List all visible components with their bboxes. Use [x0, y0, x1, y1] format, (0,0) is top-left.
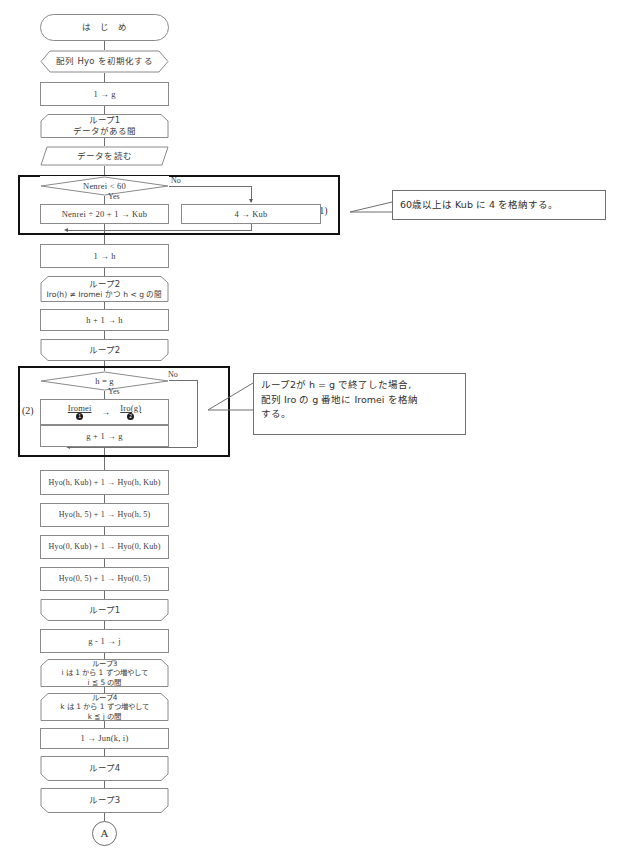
node-assign-g-label: 1 → g: [91, 89, 117, 100]
note-2: ループ2が h = g で終了した場合, 配列 Iro の g 番地に Irom…: [253, 373, 466, 435]
node-read-data: データを読む: [40, 146, 169, 166]
node-increment-h: h + 1 → h: [40, 309, 169, 331]
loop3-end-label: ループ3: [89, 795, 120, 806]
edge-loop4end-to-loop3end: [104, 781, 105, 788]
group-tag-2: (2): [22, 405, 34, 416]
store-iro-arrow: →: [102, 407, 111, 418]
edge-loop1end-to-assignj: [104, 621, 105, 629]
node-assign-j-label: g - 1 → j: [86, 636, 123, 647]
loop1-end-labels: ループ1: [40, 599, 169, 621]
loop1-end-label: ループ1: [89, 605, 120, 616]
note-2-line3: する。: [261, 407, 458, 422]
node-calc-kub: Nenrei ÷ 20 + 1 → Kub: [40, 204, 169, 224]
loop1-start-line1: ループ1: [73, 115, 136, 126]
flowchart-canvas: は じ め 配列 Hyo を初期化する 1 → g ループ1 データがある間 デ…: [0, 0, 619, 850]
branch-label-yes-1: Yes: [108, 192, 120, 201]
node-set-kub4-label: 4 → Kub: [232, 209, 269, 220]
node-assign-jun: 1 → Jun(k, i): [40, 728, 169, 749]
node-loop1-start: ループ1 データがある間: [40, 114, 169, 138]
note-1-text: 60歳以上は Kub に 4 を格納する。: [400, 198, 558, 213]
edge-assignh-to-loop2: [104, 268, 105, 276]
node-loop1-end: ループ1: [40, 599, 169, 621]
loop4-end-labels: ループ4: [40, 756, 169, 781]
node-assign-j: g - 1 → j: [40, 629, 169, 653]
node-increment-g: g + 1 → g: [40, 425, 169, 447]
node-hyo-0-kub-label: Hyo(0, Kub) + 1 → Hyo(0, Kub): [46, 542, 162, 552]
loop3-start-line2: i は 1 から 1 ずつ増やして: [61, 668, 147, 677]
node-init-hyo-label: 配列 Hyo を初期化する: [40, 50, 169, 73]
node-connector-a: A: [92, 821, 117, 846]
edge-hyo0kub-to-hyo05: [104, 559, 105, 567]
node-calc-kub-label: Nenrei ÷ 20 + 1 → Kub: [60, 209, 149, 220]
node-hyo-h-5-label: Hyo(h, 5) + 1 → Hyo(h, 5): [57, 510, 153, 520]
node-assign-h-label: 1 → h: [91, 251, 117, 262]
note-2-line1: ループ2が h = g で終了した場合,: [261, 378, 458, 393]
loop4-end-label: ループ4: [89, 763, 120, 774]
node-read-data-label: データを読む: [40, 146, 169, 166]
edge-assigng-to-loop1: [104, 106, 105, 114]
edge-loop1-to-read: [104, 138, 105, 146]
loop3-start-line1: ループ3: [61, 659, 147, 668]
node-decision-nenrei: Nenrei < 60: [40, 176, 169, 196]
loop4-start-line2: k は 1 から 1 ずつ増やして: [60, 702, 148, 711]
note-1: 60歳以上は Kub に 4 を格納する。: [392, 190, 606, 220]
node-hyo-h-5: Hyo(h, 5) + 1 → Hyo(h, 5): [40, 503, 169, 527]
branch-label-yes-2: Yes: [108, 387, 120, 396]
branch-label-no-2: No: [168, 370, 178, 379]
edge-hyoh5-to-hyo0kub: [104, 527, 105, 535]
edge-loop4-to-jun: [104, 721, 105, 728]
node-loop3-start: ループ3 i は 1 から 1 ずつ増やして i ≦ 5 の間: [40, 659, 169, 687]
loop3-start-line3: i ≦ 5 の間: [61, 678, 147, 687]
node-hyo-h-kub-label: Hyo(h, Kub) + 1 → Hyo(h, Kub): [46, 478, 162, 488]
edge-init-to-assigng: [104, 73, 105, 82]
loop4-start-labels: ループ4 k は 1 から 1 ずつ増やして k ≦ j の間: [40, 693, 169, 721]
node-hyo-0-5: Hyo(0, 5) + 1 → Hyo(0, 5): [40, 567, 169, 591]
node-store-iro: Iromei 1 → Iro(g) 2: [40, 399, 169, 425]
store-iro-right: Iro(g): [120, 404, 141, 413]
branch-label-no-1: No: [171, 176, 181, 185]
node-decision-hg-label: h = g: [40, 371, 169, 391]
node-assign-jun-label: 1 → Jun(k, i): [79, 733, 131, 744]
store-iro-mark2: 2: [127, 413, 134, 420]
node-init-hyo: 配列 Hyo を初期化する: [40, 50, 169, 73]
edge-loop2-to-inc: [104, 302, 105, 309]
loop1-start-labels: ループ1 データがある間: [40, 114, 169, 138]
note-2-leader: [200, 382, 255, 416]
edge-hyo05-to-loop1end: [104, 591, 105, 599]
node-loop2-start: ループ2 Iro(h) ≠ Iromei かつ h < g の間: [40, 276, 169, 302]
store-iro-right-group: Iro(g) 2: [120, 404, 141, 420]
store-iro-left: Iromei: [68, 404, 92, 413]
loop2-start-line1: ループ2: [47, 279, 163, 290]
node-hyo-0-kub: Hyo(0, Kub) + 1 → Hyo(0, Kub): [40, 535, 169, 559]
loop2-start-line2: Iro(h) ≠ Iromei かつ h < g の間: [47, 290, 163, 299]
node-decision-nenrei-label: Nenrei < 60: [40, 176, 169, 196]
node-decision-hg: h = g: [40, 371, 169, 391]
loop3-start-labels: ループ3 i は 1 から 1 ずつ増やして i ≦ 5 の間: [40, 659, 169, 687]
node-start: は じ め: [40, 14, 169, 41]
edge-inc-to-loop2end: [104, 331, 105, 339]
loop4-start-line1: ループ4: [60, 693, 148, 702]
node-assign-g: 1 → g: [40, 82, 169, 106]
note-1-leader: [340, 190, 394, 220]
node-hyo-h-kub: Hyo(h, Kub) + 1 → Hyo(h, Kub): [40, 470, 169, 495]
node-increment-g-label: g + 1 → g: [84, 431, 124, 442]
node-loop2-end: ループ2: [40, 339, 169, 361]
node-set-kub4: 4 → Kub: [181, 204, 321, 224]
edge-start-to-init: [104, 41, 105, 50]
node-hyo-0-5-label: Hyo(0, 5) + 1 → Hyo(0, 5): [57, 574, 153, 584]
node-start-label: は じ め: [80, 22, 130, 33]
node-loop3-end: ループ3: [40, 788, 169, 813]
node-increment-h-label: h + 1 → h: [84, 315, 124, 326]
loop4-start-line3: k ≦ j の間: [60, 712, 148, 721]
loop2-end-labels: ループ2: [40, 339, 169, 361]
loop2-start-labels: ループ2 Iro(h) ≠ Iromei かつ h < g の間: [40, 276, 169, 302]
edge-hyohkub-to-hyoh5: [104, 495, 105, 503]
edge-jun-to-loop4end: [104, 749, 105, 756]
note-2-line2: 配列 Iro の g 番地に Iromei を格納: [261, 393, 458, 408]
edge-read-to-decision: [104, 166, 105, 175]
loop2-end-label: ループ2: [89, 345, 120, 356]
node-loop4-end: ループ4: [40, 756, 169, 781]
node-connector-a-label: A: [98, 827, 110, 841]
node-store-iro-content: Iromei 1 → Iro(g) 2: [66, 404, 144, 420]
node-assign-h: 1 → h: [40, 244, 169, 268]
